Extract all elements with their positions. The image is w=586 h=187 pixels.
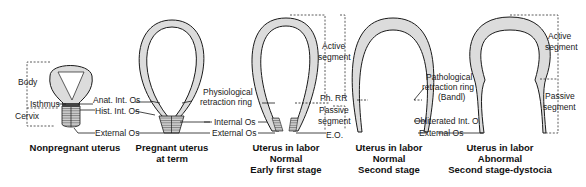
label-active-1-dyst: Active xyxy=(548,31,571,41)
caption-early-2: Normal xyxy=(270,153,303,164)
label-passive-1-dyst: Passive xyxy=(545,91,575,101)
label-passive-2-dyst: segment xyxy=(543,102,576,112)
caption-early-3: Early first stage xyxy=(250,164,321,175)
uterine-wall-dystocia xyxy=(470,17,550,133)
caption-second-3: Second stage xyxy=(358,164,420,175)
label-pathological-3: (Bandl) xyxy=(438,92,466,102)
label-passive-1: Passive xyxy=(319,105,349,115)
label-isthmus: Isthmus xyxy=(30,99,60,109)
label-physiological-1: Physiological xyxy=(203,87,253,97)
caption-nonpregnant: Nonpregnant uterus xyxy=(30,142,121,153)
label-pathological-1: Pathological xyxy=(426,72,472,82)
label-active-2: segment xyxy=(318,52,351,62)
caption-pregnant-1: Pregnant uterus xyxy=(136,142,209,153)
figure-nonpregnant-uterus: Body Isthmus Cervix Anat. Int. Os Hist. … xyxy=(15,62,140,153)
caption-pregnant-2: at term xyxy=(156,153,188,164)
label-active-2-dyst: segment xyxy=(545,42,578,52)
label-pathological-2: retraction ring xyxy=(422,82,474,92)
label-physiological-2: retraction ring xyxy=(200,97,252,107)
label-external-os: External Os xyxy=(95,128,139,138)
label-hist-int-os: Hist. Int. Os xyxy=(95,106,139,116)
label-ph-rr: Ph. RR xyxy=(320,93,347,103)
label-cervix: Cervix xyxy=(15,111,40,121)
uterine-wall-early xyxy=(252,18,318,131)
uterus-labor-diagram: Body Isthmus Cervix Anat. Int. Os Hist. … xyxy=(0,0,586,187)
label-external-os-2: External Os xyxy=(212,128,256,138)
figure-labor-second-stage: Pathological retraction ring (Bandl) Obl… xyxy=(352,18,483,175)
label-active-1: Active xyxy=(322,41,345,51)
label-anat-int-os: Anat. Int. Os xyxy=(93,95,140,105)
label-body: Body xyxy=(18,77,38,87)
label-passive-2: segment xyxy=(318,116,351,126)
uterine-wall-second xyxy=(352,18,434,132)
uterine-wall-term xyxy=(139,20,204,117)
caption-second-2: Normal xyxy=(373,153,406,164)
figure-labor-early-first: Active segment Ph. RR Passive segment E.… xyxy=(250,15,351,175)
caption-dystocia-3: Second stage-dystocia xyxy=(448,164,552,175)
caption-second-1: Uterus in labor xyxy=(355,142,422,153)
caption-dystocia-2: Abnormal xyxy=(478,153,522,164)
label-internal-os: Internal Os xyxy=(214,117,256,127)
label-eo: E.O. xyxy=(326,130,343,140)
caption-dystocia-1: Uterus in labor xyxy=(466,142,533,153)
caption-early-1: Uterus in labor xyxy=(252,142,319,153)
figure-pregnant-uterus-term: Physiological retraction ring Internal O… xyxy=(135,20,256,164)
